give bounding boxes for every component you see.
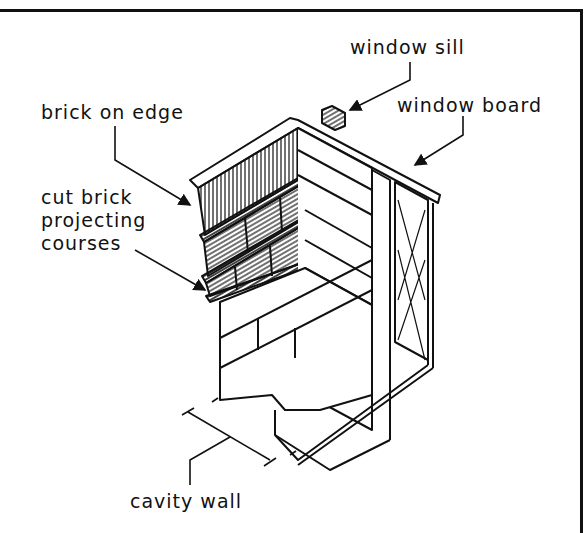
label-cavity-wall: cavity wall <box>130 490 242 512</box>
label-cut-brick: cut brick <box>41 186 133 208</box>
wall-drawing <box>0 0 588 533</box>
label-brick-on-edge: brick on edge <box>41 101 184 123</box>
label-projecting: projecting <box>41 209 146 231</box>
label-courses: courses <box>41 232 121 254</box>
label-window-board: window board <box>397 94 542 116</box>
label-window-sill: window sill <box>350 36 465 58</box>
